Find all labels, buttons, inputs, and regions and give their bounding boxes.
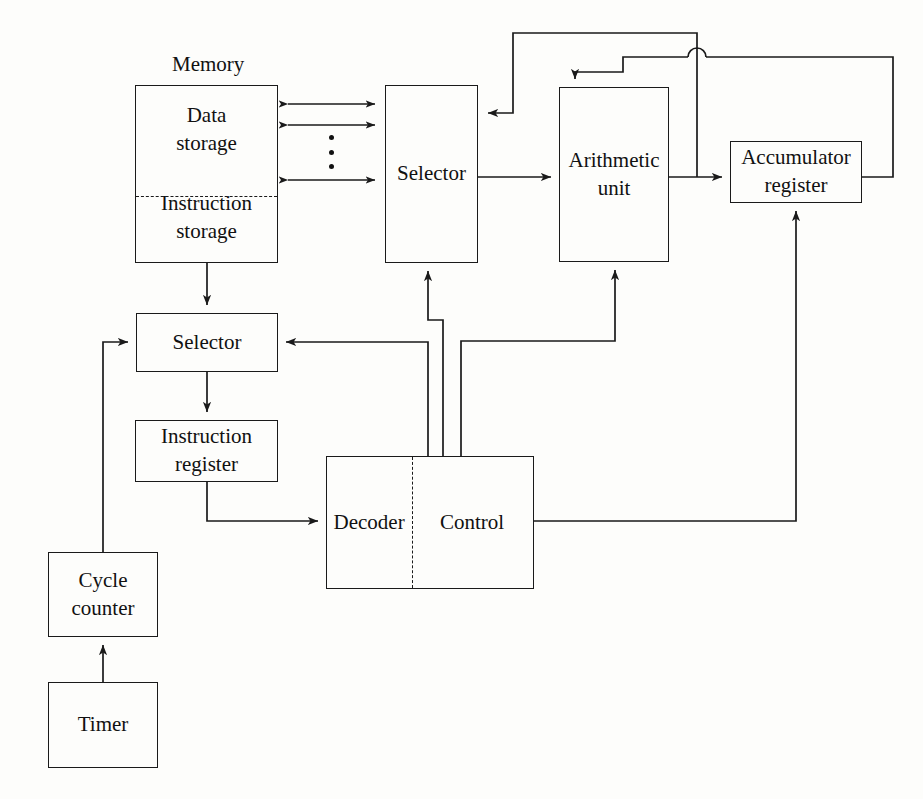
- instruction-storage-line-1: Instruction: [161, 190, 252, 218]
- arithmetic-unit-line-1: Arithmetic: [569, 147, 660, 175]
- block-selector-bottom[interactable]: Selector: [136, 313, 278, 372]
- block-memory[interactable]: Data storage Instruction storage: [135, 85, 278, 263]
- control-label: Control: [440, 509, 504, 537]
- wire-control-to-selector-bottom: [286, 342, 428, 456]
- data-storage-line-1: Data: [187, 102, 227, 130]
- block-timer[interactable]: Timer: [48, 682, 158, 768]
- accumulator-register-line-1: Accumulator: [741, 144, 851, 172]
- cycle-counter-line-1: Cycle: [79, 567, 128, 595]
- block-cycle-counter[interactable]: Cycle counter: [48, 552, 158, 637]
- memory-data-storage: Data storage: [136, 86, 277, 174]
- block-accumulator-register[interactable]: Accumulator register: [730, 141, 862, 203]
- wire-crossing-hop: [688, 48, 706, 57]
- decoder-control-divider: [412, 457, 413, 588]
- selector-top-label: Selector: [397, 160, 466, 188]
- timer-label: Timer: [78, 711, 129, 739]
- block-instruction-register[interactable]: Instruction register: [135, 420, 278, 482]
- decoder-half: Decoder: [327, 457, 411, 588]
- instruction-register-line-2: register: [175, 451, 238, 479]
- memory-divider: [136, 196, 277, 197]
- decoder-label: Decoder: [334, 509, 405, 537]
- block-decoder-control[interactable]: Decoder Control: [326, 456, 534, 589]
- memory-instruction-storage: Instruction storage: [136, 174, 277, 262]
- accumulator-register-line-2: register: [765, 172, 828, 200]
- diagram-canvas: Memory Data storage Instruction storage …: [0, 0, 923, 799]
- selector-bottom-label: Selector: [173, 329, 242, 357]
- instruction-register-line-1: Instruction: [161, 423, 252, 451]
- bus-ellipsis-icon: [328, 135, 334, 169]
- arithmetic-unit-line-2: unit: [598, 175, 631, 203]
- instruction-storage-line-2: storage: [176, 218, 237, 246]
- control-half: Control: [411, 457, 533, 588]
- wire-accumulator-to-arithmetic-feedback-2: [575, 57, 688, 79]
- data-storage-line-2: storage: [176, 130, 237, 158]
- block-arithmetic-unit[interactable]: Arithmetic unit: [559, 87, 669, 262]
- block-selector-top[interactable]: Selector: [385, 85, 478, 263]
- wire-cycle-counter-to-selector: [103, 342, 128, 552]
- memory-caption: Memory: [172, 52, 244, 77]
- wire-instruction-register-to-decoder: [207, 482, 318, 521]
- cycle-counter-line-2: counter: [72, 595, 135, 623]
- wire-control-to-selector-top: [428, 271, 443, 456]
- wire-control-to-arithmetic: [461, 270, 615, 456]
